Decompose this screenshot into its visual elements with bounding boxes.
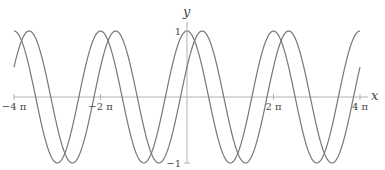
axes xyxy=(14,22,368,163)
x-tick-label: 2 π xyxy=(265,101,282,112)
y-axis-label: y xyxy=(182,4,191,19)
x-axis-label: x xyxy=(371,88,379,103)
y-tick-label: 1 xyxy=(175,26,181,37)
chart-plot: −4 π−2 π2 π4 π1−1 x y xyxy=(0,0,385,170)
x-tick-label: −2 π xyxy=(88,101,113,112)
x-tick-label: −4 π xyxy=(2,101,27,112)
x-tick-label: 4 π xyxy=(352,101,369,112)
y-tick-label: −1 xyxy=(166,158,181,169)
